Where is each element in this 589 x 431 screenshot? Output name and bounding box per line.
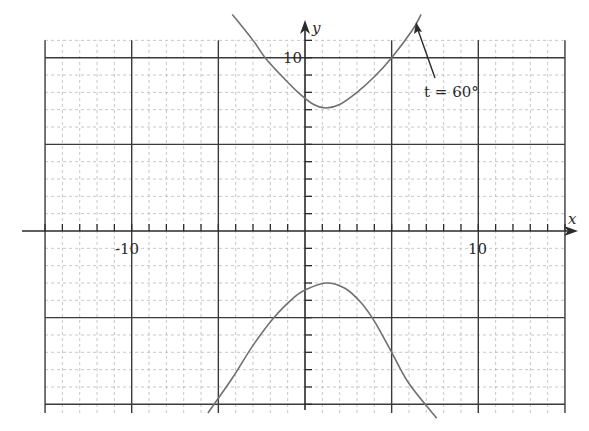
annotation-label: t = 60° xyxy=(424,83,479,101)
graph: x y -10 10 10 t = 60° xyxy=(0,0,589,431)
x-tick-label-10: 10 xyxy=(468,240,487,258)
annotation-arrowhead-icon xyxy=(414,22,422,34)
upper-branch-curve xyxy=(232,14,421,108)
y-axis-label: y xyxy=(311,19,321,37)
x-tick-label-neg10: -10 xyxy=(115,240,139,258)
y-tick-label-10: 10 xyxy=(283,49,302,67)
x-axis-label: x xyxy=(568,210,577,228)
